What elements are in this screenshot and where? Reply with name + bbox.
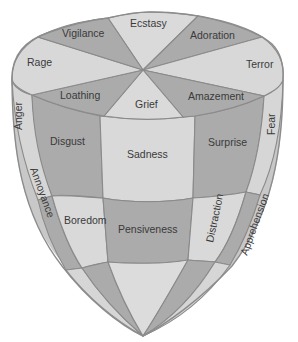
label-rage: Rage	[27, 56, 52, 68]
emotion-cone-diagram: Ecstasy Vigilance Adoration Rage Terror …	[0, 0, 298, 342]
label-terror: Terror	[246, 58, 274, 70]
label-anger: Anger	[12, 101, 24, 130]
label-adoration: Adoration	[190, 29, 235, 41]
label-pensiveness: Pensiveness	[118, 223, 178, 235]
label-surprise: Surprise	[208, 136, 247, 148]
label-sadness: Sadness	[127, 148, 168, 160]
label-loathing: Loathing	[60, 89, 100, 101]
label-boredom: Boredom	[64, 214, 107, 226]
label-ecstasy: Ecstasy	[130, 17, 168, 29]
label-vigilance: Vigilance	[62, 27, 105, 39]
label-fear: Fear	[265, 113, 277, 135]
label-disgust: Disgust	[50, 135, 85, 147]
label-grief: Grief	[135, 98, 158, 110]
label-amazement: Amazement	[188, 90, 244, 102]
